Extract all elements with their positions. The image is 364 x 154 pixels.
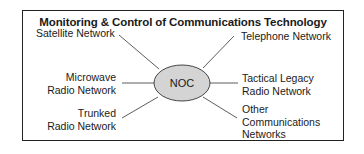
- connector-trunked: [122, 97, 158, 118]
- node-label-line2: Communications: [242, 116, 320, 129]
- node-label-line1: Microwave: [46, 71, 116, 84]
- node-other-communications-networks: Other Communications Networks: [242, 103, 320, 141]
- node-tactical-legacy-radio-network: Tactical Legacy Radio Network: [242, 72, 314, 97]
- noc-label: NOC: [155, 68, 209, 98]
- node-label-line2: Radio Network: [242, 85, 314, 98]
- node-label-line1: Trunked: [46, 107, 116, 120]
- node-label: Satellite Network: [36, 27, 115, 39]
- node-label: Telephone Network: [241, 30, 331, 42]
- connector-satellite: [119, 35, 159, 69]
- node-label-line2: Radio Network: [46, 120, 116, 133]
- connector-other: [203, 97, 237, 118]
- connector-telephone: [203, 36, 234, 68]
- node-telephone-network: Telephone Network: [241, 30, 331, 43]
- node-trunked-radio-network: Trunked Radio Network: [46, 107, 116, 132]
- node-microwave-radio-network: Microwave Radio Network: [46, 71, 116, 96]
- node-label-line1: Tactical Legacy: [242, 72, 314, 85]
- node-satellite-network: Satellite Network: [36, 27, 115, 40]
- node-label-line1: Other: [242, 103, 320, 116]
- node-label-line2: Radio Network: [46, 84, 116, 97]
- node-label-line3: Networks: [242, 128, 320, 141]
